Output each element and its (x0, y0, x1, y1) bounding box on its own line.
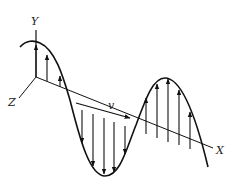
field-vectors-crest-1 (36, 45, 60, 87)
z-axis-label: Z (7, 96, 16, 109)
field-vectors-trough (82, 110, 125, 174)
z-axis (19, 77, 36, 98)
field-vectors-crest-2 (146, 79, 190, 149)
wave-diagram: Y Z X v (0, 0, 233, 188)
x-axis-label: X (215, 144, 225, 157)
velocity-label: v (108, 99, 115, 112)
y-axis-label: Y (31, 15, 40, 28)
velocity-arrow (76, 103, 130, 118)
